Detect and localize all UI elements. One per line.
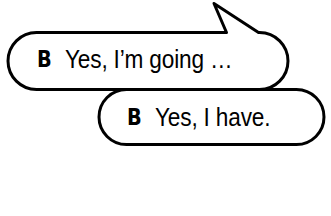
- bubble-one-utterance: Yes, I’m going …: [65, 46, 232, 72]
- illustration-canvas: B Yes, I’m going … B Yes, I have.: [0, 0, 331, 216]
- bubble-one-text: B Yes, I’m going …: [37, 43, 257, 75]
- bubble-two-utterance: Yes, I have.: [155, 104, 270, 130]
- bubble-two-text: B Yes, I have.: [127, 101, 288, 133]
- bubble-two-speaker-label: B: [127, 106, 141, 129]
- bubble-one-speaker-label: B: [37, 48, 51, 71]
